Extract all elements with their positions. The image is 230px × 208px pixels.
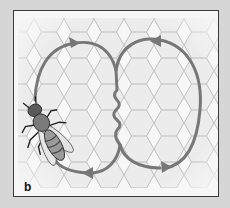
waggle-dance-illustration — [0, 0, 230, 208]
panel-label: b — [24, 181, 31, 193]
